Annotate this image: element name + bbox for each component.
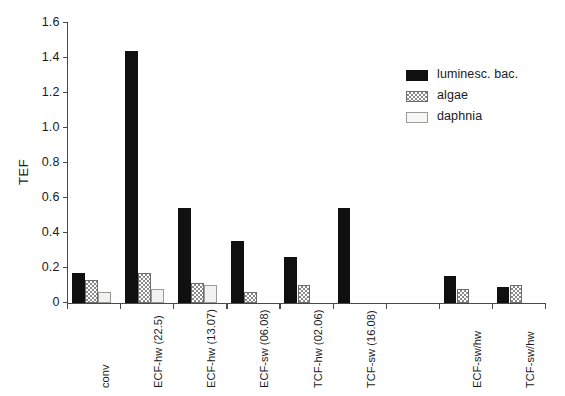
bar [510,285,523,303]
x-tick-label: conv [99,364,111,388]
bar [497,287,510,303]
bar [244,292,257,303]
bar [457,289,470,303]
y-tick [63,127,68,128]
y-tick-label: 1.2 [22,85,60,99]
bar [85,280,98,303]
bar [204,285,217,303]
x-tick-label: ECF-sw (06.08) [258,310,270,388]
legend-swatch [406,91,428,102]
y-tick-label: 1.6 [22,15,60,29]
bar [125,51,138,303]
x-tick [545,303,546,309]
y-tick [63,162,68,163]
y-tick-label: 0.6 [22,190,60,204]
x-tick [492,303,493,309]
x-tick-label: TCF-hw (02.06) [312,310,324,388]
bar [191,283,204,302]
x-tick [386,303,387,309]
bar [98,292,111,303]
legend-label: luminesc. bac. [437,67,518,81]
y-tick [63,267,68,268]
x-tick-label: TCF-sw (16.08) [365,310,377,388]
bar [444,276,457,302]
legend-label: daphnia [437,109,482,123]
y-tick-label: 0.4 [22,225,60,239]
y-axis-title: TEF [16,159,31,185]
x-tick [333,303,334,309]
y-tick-label: 1.4 [22,50,60,64]
y-tick-label: 0 [22,295,60,309]
bar [231,241,244,302]
bar-chart: 00.20.40.60.81.01.21.41.6 TEF convECF-hw… [0,0,565,396]
bar [338,208,351,303]
bar [151,289,164,303]
x-tick [67,303,68,309]
bar [298,285,311,303]
y-tick [63,92,68,93]
bar [72,273,85,303]
legend-label: algae [437,88,468,102]
x-tick [439,303,440,309]
x-tick-label: TCF-sw/hw [524,331,536,388]
y-tick [63,57,68,58]
legend-swatch [406,112,428,123]
legend-swatch [406,70,428,81]
bar [284,257,297,303]
bar [178,208,191,303]
x-axis-line [68,303,546,304]
x-tick [279,303,280,309]
x-tick-label: ECF-sw/hw [471,331,483,388]
x-tick-label: ECF-hw (13.07) [205,309,217,388]
y-tick [63,22,68,23]
x-tick-label: ECF-hw (22.5) [152,315,164,388]
y-tick-label: 0.2 [22,260,60,274]
y-tick [63,232,68,233]
x-tick [173,303,174,309]
y-tick-label: 1.0 [22,120,60,134]
y-tick [63,197,68,198]
bar [138,273,151,303]
x-tick [226,303,227,309]
x-tick [120,303,121,309]
